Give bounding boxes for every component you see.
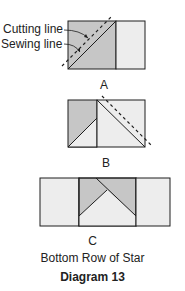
cutting-line-label: Cutting line [3, 22, 63, 36]
diagram-title: Diagram 13 [0, 270, 185, 284]
diagram-c-caption: Bottom Row of Star [0, 251, 185, 265]
diagram-c [40, 178, 170, 226]
diagram-b [68, 96, 152, 147]
diagram-b-label: B [102, 156, 110, 170]
diagram-a [62, 17, 145, 69]
diagram-a-label: A [100, 78, 108, 92]
diagram-c-label: C [0, 234, 185, 248]
sewing-line-label: Sewing line [1, 37, 62, 51]
